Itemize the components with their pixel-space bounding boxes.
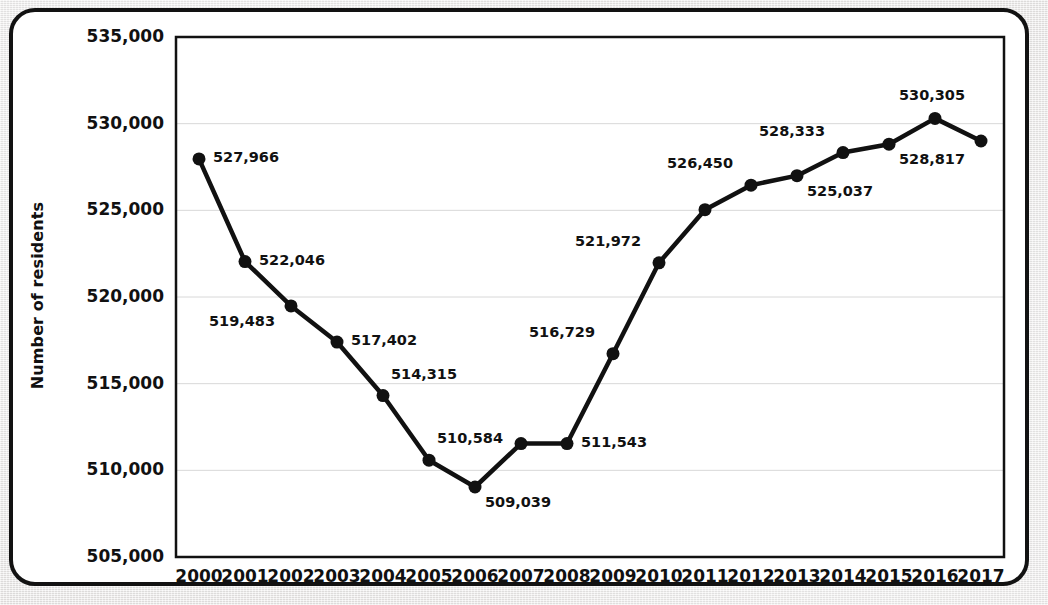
figure-frame: Number of residents 505,000510,000515,00… <box>9 8 1029 586</box>
line-chart-canvas <box>13 12 1025 582</box>
